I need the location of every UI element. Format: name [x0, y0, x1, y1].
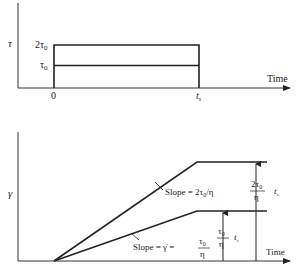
bottom-chart: γ Slope = 2τ0/η Slope = γ̇ = τ0 η 2τ0 η … [8, 132, 290, 261]
upper-level-num: 2τ0 [251, 179, 262, 190]
lower-slope-leader [131, 233, 139, 240]
tick-zero: 0 [51, 90, 56, 101]
tick-ts: ts [196, 90, 202, 102]
lower-slope-num: τ0 [199, 236, 206, 247]
bottom-ylabel: γ [8, 187, 13, 199]
lower-slope-label: Slope = γ̇ = [133, 242, 174, 252]
stress-high-pulse [54, 45, 199, 88]
top-xlabel: Time [267, 73, 288, 84]
lower-slope-den: η [200, 249, 205, 259]
level-low-label: τ0 [40, 59, 48, 72]
lower-level-t: ts [234, 232, 239, 243]
lower-level-den: η [219, 239, 224, 249]
upper-level-t: ts [274, 186, 279, 197]
top-chart: τ 2τ0 τ0 0 ts Time [8, 3, 290, 102]
diagram-canvas: τ 2τ0 τ0 0 ts Time γ Slope = 2τ0/η Sl [0, 0, 297, 276]
upper-slope-label: Slope = 2τ0/η [165, 187, 214, 198]
upper-level-den: η [254, 192, 259, 202]
level-high-label: 2τ0 [35, 39, 48, 52]
bottom-xlabel: Time [266, 247, 285, 257]
lower-level-num: τ0 [218, 226, 225, 237]
top-ylabel: τ [8, 37, 13, 49]
